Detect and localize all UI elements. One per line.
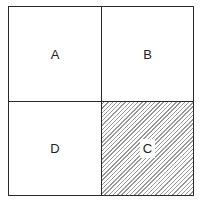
two-by-two-grid: A B D C <box>8 6 194 196</box>
cell-a: A <box>9 7 102 102</box>
cell-c-label: C <box>140 139 155 158</box>
cell-a-label: A <box>49 46 62 63</box>
cell-b-label: B <box>141 46 154 63</box>
cell-b: B <box>102 7 193 102</box>
cell-c-hatched: C <box>102 102 193 195</box>
cell-d: D <box>9 102 102 195</box>
cell-d-label: D <box>48 140 61 157</box>
